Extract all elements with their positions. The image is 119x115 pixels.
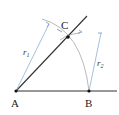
geometry-construction-diagram: A B C r1 r2 bbox=[0, 0, 119, 115]
arrow-icon bbox=[46, 22, 49, 27]
point-c bbox=[66, 35, 70, 39]
radius-r1-line bbox=[16, 24, 49, 91]
diagram-svg: A B C r1 r2 bbox=[0, 0, 119, 115]
label-c: C bbox=[61, 19, 68, 31]
arrow-icon bbox=[78, 30, 82, 33]
label-a: A bbox=[11, 97, 19, 109]
label-r1: r1 bbox=[23, 47, 30, 58]
label-r2: r2 bbox=[97, 58, 104, 69]
label-b: B bbox=[85, 97, 92, 109]
point-a bbox=[14, 89, 17, 92]
point-b bbox=[87, 89, 90, 92]
